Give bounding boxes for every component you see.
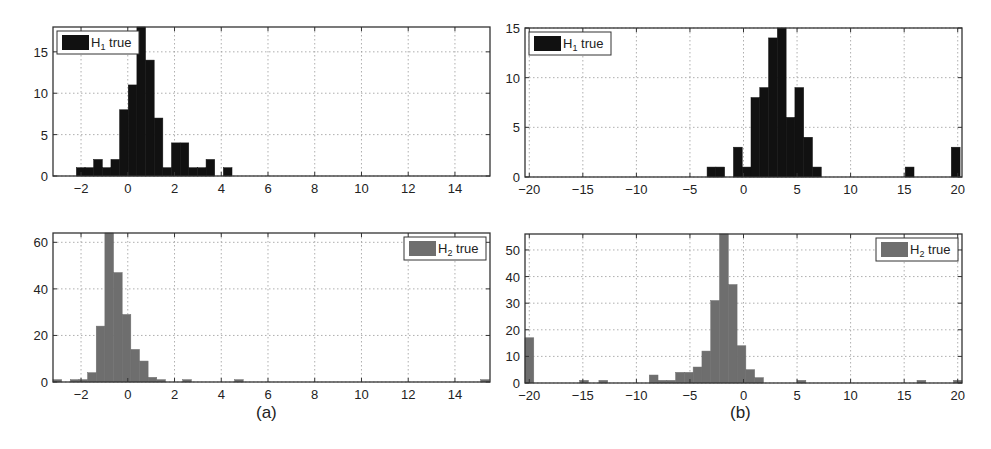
legend-label: H1 true xyxy=(563,36,603,53)
histogram-bars xyxy=(707,28,960,177)
y-tick-label: 0 xyxy=(513,376,520,391)
histogram-bar xyxy=(223,168,232,176)
x-tick-label: 5 xyxy=(793,182,800,197)
x-tick-label: 2 xyxy=(171,387,178,402)
x-tick-label: 15 xyxy=(897,388,911,403)
histogram-bar xyxy=(684,372,693,383)
x-tick-label: 20 xyxy=(950,388,964,403)
y-tick-label: 10 xyxy=(34,86,48,101)
histogram-bar xyxy=(128,85,137,176)
x-tick-label: 5 xyxy=(793,388,800,403)
x-tick-label: 10 xyxy=(843,388,857,403)
x-tick-label: 14 xyxy=(448,387,462,402)
histogram-bar xyxy=(206,159,215,176)
histogram-bar xyxy=(148,377,157,382)
histogram-bar xyxy=(707,167,716,177)
histogram-bar xyxy=(163,168,172,176)
histogram-b-top: −20−15−10−505101520051015H1 true xyxy=(495,0,991,200)
histogram-bar xyxy=(804,137,813,177)
histogram-bar xyxy=(122,314,131,382)
y-tick-label: 30 xyxy=(506,296,520,311)
histogram-bar xyxy=(171,143,180,176)
histogram-bar xyxy=(693,367,702,383)
x-tick-label: −2 xyxy=(74,181,89,196)
x-tick-label: 4 xyxy=(218,181,225,196)
x-tick-label: −2 xyxy=(74,387,89,402)
y-tick-label: 10 xyxy=(506,71,520,86)
histogram-bar xyxy=(102,168,111,176)
legend-swatch xyxy=(62,35,89,50)
x-tick-label: 15 xyxy=(897,182,911,197)
legend-label: H1 true xyxy=(91,35,131,52)
x-tick-label: −5 xyxy=(683,388,698,403)
legend-swatch xyxy=(409,241,436,256)
x-tick-label: 6 xyxy=(264,181,271,196)
histogram-bar xyxy=(197,168,206,176)
legend-swatch xyxy=(534,36,561,51)
x-tick-label: 8 xyxy=(311,387,318,402)
x-tick-label: 14 xyxy=(448,181,462,196)
caption-a: (a) xyxy=(256,403,277,423)
x-tick-label: 10 xyxy=(843,182,857,197)
y-tick-label: 5 xyxy=(41,128,48,143)
histogram-bar xyxy=(131,349,140,382)
histogram-bar xyxy=(94,159,103,176)
histogram-bar xyxy=(905,167,914,177)
y-tick-label: 10 xyxy=(506,349,520,364)
y-tick-label: 50 xyxy=(506,243,520,258)
x-tick-label: 10 xyxy=(354,181,368,196)
caption-b: (b) xyxy=(730,403,751,423)
histogram-bar xyxy=(676,372,685,383)
figure-panel-a-bottom: −2024681012140204060H2 true xyxy=(0,205,495,405)
histogram-bar xyxy=(702,351,711,383)
histogram-bar xyxy=(769,38,778,177)
legend-label: H2 true xyxy=(910,242,950,259)
y-tick-label: 40 xyxy=(34,282,48,297)
legend: H1 true xyxy=(57,31,139,54)
y-tick-label: 20 xyxy=(506,323,520,338)
histogram-bar xyxy=(786,117,795,177)
x-tick-label: −15 xyxy=(572,388,594,403)
histogram-bar xyxy=(146,60,155,176)
histogram-bar xyxy=(105,233,114,382)
legend: H1 true xyxy=(529,32,611,55)
legend: H2 true xyxy=(404,237,486,260)
y-tick-label: 40 xyxy=(506,270,520,285)
histogram-bar xyxy=(649,375,658,383)
histogram-bar xyxy=(111,159,120,176)
x-tick-label: 0 xyxy=(124,387,131,402)
x-tick-label: 12 xyxy=(401,181,415,196)
y-tick-label: 60 xyxy=(34,235,48,250)
histogram-bar xyxy=(180,143,189,176)
histogram-bar xyxy=(760,88,769,177)
histogram-bar xyxy=(85,168,94,176)
x-tick-label: −15 xyxy=(572,182,594,197)
x-tick-label: −20 xyxy=(518,388,540,403)
x-tick-label: 20 xyxy=(950,182,964,197)
histogram-bar xyxy=(88,373,97,382)
x-tick-label: 12 xyxy=(401,387,415,402)
histogram-bar xyxy=(751,98,760,177)
figure-panel-b-top: −20−15−10−505101520051015H1 true xyxy=(495,0,991,200)
histogram-bar xyxy=(733,147,742,177)
x-tick-label: −5 xyxy=(683,182,698,197)
y-tick-label: 20 xyxy=(34,328,48,343)
y-tick-label: 5 xyxy=(513,120,520,135)
histogram-a-top: −202468101214051015H1 true xyxy=(0,0,495,200)
histogram-bar xyxy=(189,168,198,176)
histogram-bar xyxy=(716,167,725,177)
legend: H2 true xyxy=(876,238,958,261)
histogram-bar xyxy=(777,28,786,177)
figure-panel-b-bottom: −20−15−10−50510152001020304050H2 true xyxy=(495,205,991,405)
histogram-bar xyxy=(737,346,746,383)
x-tick-label: 0 xyxy=(740,388,747,403)
histogram-bar xyxy=(711,301,720,383)
histogram-bar xyxy=(525,338,534,383)
histogram-b-bottom: −20−15−10−50510152001020304050H2 true xyxy=(495,205,991,405)
histogram-bar xyxy=(755,378,764,383)
x-tick-label: 8 xyxy=(311,181,318,196)
y-tick-label: 0 xyxy=(41,375,48,390)
x-tick-label: −20 xyxy=(518,182,540,197)
figure-panel-a-top: −202468101214051015H1 true xyxy=(0,0,495,200)
x-tick-label: 0 xyxy=(124,181,131,196)
